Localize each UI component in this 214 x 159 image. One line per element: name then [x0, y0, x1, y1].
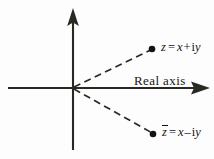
z-conjugate-imaginary-part: y	[195, 125, 201, 139]
point-marker-z	[149, 46, 156, 53]
z-conjugate-real-part: x	[178, 125, 184, 139]
z-conjugate-equals-sign: =	[167, 125, 178, 139]
z-conjugate-operator: –	[184, 125, 192, 139]
connector-origin-to-z-conjugate	[74, 89, 151, 132]
point-marker-z-conjugate	[150, 131, 157, 138]
z-imaginary-part: y	[195, 40, 201, 54]
complex-plane-figure: Real axis z=x+iy z=x–iy	[0, 0, 214, 159]
point-label-z-conjugate: z=x–iy	[162, 126, 201, 139]
point-label-z: z=x+iy	[161, 41, 201, 54]
z-equals-sign: =	[166, 40, 177, 54]
z-real-part: x	[177, 40, 183, 54]
z-conjugate-symbol: z	[162, 126, 167, 139]
real-axis-label: Real axis	[134, 74, 186, 87]
z-operator: +	[183, 40, 192, 54]
